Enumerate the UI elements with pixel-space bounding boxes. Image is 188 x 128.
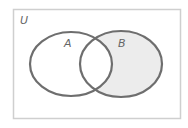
set-a-label: A [63, 37, 72, 50]
venn-diagram: U A B [0, 0, 188, 128]
set-b-label: B [118, 37, 126, 50]
universe-label: U [20, 14, 28, 27]
